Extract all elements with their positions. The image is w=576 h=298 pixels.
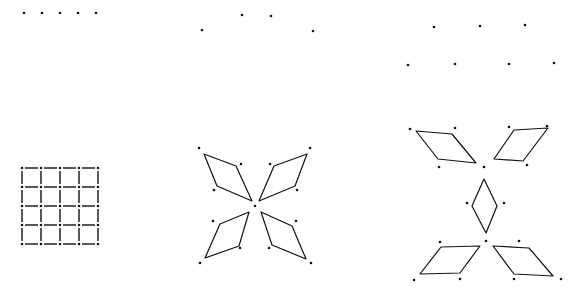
construction-dot — [560, 278, 563, 281]
panel-2 — [198, 14, 315, 265]
rhombus-shape — [261, 212, 306, 259]
figure-canvas — [0, 0, 576, 298]
top-dot — [454, 63, 457, 66]
dashed-grid — [21, 167, 100, 246]
top-dot — [407, 64, 410, 67]
top-dot — [508, 63, 511, 66]
construction-dot — [508, 126, 511, 129]
construction-dot — [198, 147, 201, 150]
construction-dot — [213, 189, 216, 192]
top-dot — [59, 12, 62, 15]
top-dot — [241, 14, 244, 17]
construction-dot — [413, 279, 416, 282]
grid-dot — [78, 224, 81, 227]
top-dot — [553, 62, 556, 65]
grid-dot — [59, 186, 62, 189]
grid-dot — [59, 167, 62, 170]
construction-dot — [526, 164, 529, 167]
construction-dot — [199, 262, 202, 265]
construction-dot — [268, 247, 271, 250]
top-dot — [270, 15, 273, 18]
construction-dot — [483, 166, 486, 169]
grid-dot — [97, 243, 100, 246]
top-dot — [433, 26, 436, 29]
grid-dot — [59, 224, 62, 227]
grid-dot — [59, 205, 62, 208]
rhombus-shape — [420, 246, 480, 274]
construction-dot — [439, 241, 442, 244]
construction-dot — [269, 163, 272, 166]
grid-dot — [40, 205, 43, 208]
top-dot — [524, 24, 527, 27]
construction-dot — [485, 240, 488, 243]
top-dot — [95, 12, 98, 15]
rhombus-shape — [259, 154, 307, 201]
construction-dot — [546, 125, 549, 128]
construction-dot — [518, 240, 521, 243]
top-dot — [479, 25, 482, 28]
rhombus-shape — [472, 179, 497, 233]
panel-1 — [21, 12, 100, 246]
grid-dot — [21, 205, 24, 208]
grid-dot — [40, 224, 43, 227]
grid-dot — [40, 186, 43, 189]
grid-dot — [97, 167, 100, 170]
top-dot — [77, 12, 80, 15]
grid-dot — [78, 167, 81, 170]
dot-pattern-diagram — [0, 0, 576, 298]
construction-dot — [409, 128, 412, 131]
rhombus-shape — [205, 212, 249, 258]
grid-dot — [40, 243, 43, 246]
construction-dot — [239, 247, 242, 250]
grid-dot — [40, 167, 43, 170]
grid-dot — [97, 224, 100, 227]
construction-dot — [438, 166, 441, 169]
construction-dot — [309, 147, 312, 150]
grid-dot — [78, 186, 81, 189]
construction-dot — [212, 220, 215, 223]
top-dot — [201, 29, 204, 32]
grid-dot — [21, 167, 24, 170]
construction-dot — [459, 278, 462, 281]
rhombus-shape — [204, 154, 252, 201]
rhombus-shape — [494, 128, 548, 161]
construction-dot — [466, 202, 469, 205]
grid-dot — [78, 243, 81, 246]
grid-dot — [97, 186, 100, 189]
grid-dot — [78, 205, 81, 208]
top-dot — [41, 12, 44, 15]
grid-dot — [97, 205, 100, 208]
construction-dot — [503, 202, 506, 205]
construction-dot — [513, 278, 516, 281]
top-dot — [312, 30, 315, 33]
center-dot — [254, 205, 257, 208]
rhombus-shape — [493, 246, 553, 276]
top-dot — [23, 12, 26, 15]
grid-dot — [21, 243, 24, 246]
grid-dot — [21, 186, 24, 189]
rhombus-shape — [416, 131, 476, 163]
grid-dot — [21, 224, 24, 227]
construction-dot — [454, 127, 457, 130]
construction-dot — [295, 220, 298, 223]
construction-dot — [310, 262, 313, 265]
construction-dot — [240, 163, 243, 166]
panel-3 — [407, 24, 563, 282]
grid-dot — [59, 243, 62, 246]
construction-dot — [296, 189, 299, 192]
